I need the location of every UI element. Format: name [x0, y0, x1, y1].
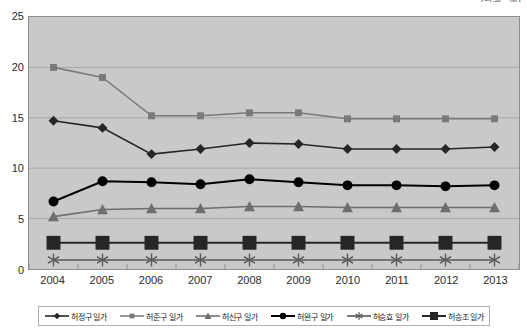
data-point-marker — [341, 236, 355, 250]
data-point-marker — [294, 139, 304, 149]
legend-swatch — [270, 310, 296, 322]
data-point-marker — [196, 144, 206, 154]
series-4 — [49, 174, 500, 206]
legend-marker-triangle-icon — [195, 310, 221, 322]
legend-marker-diamond-icon — [44, 310, 70, 322]
data-point-marker — [243, 236, 257, 250]
legend-swatch — [346, 310, 372, 322]
data-point-marker — [145, 236, 159, 250]
data-point-marker — [147, 149, 157, 159]
x-tick-label: 2008 — [237, 274, 261, 286]
legend-item-label: 허준구 일가 — [146, 311, 182, 322]
y-tick-label: 10 — [12, 162, 24, 174]
data-point-marker — [98, 123, 108, 133]
x-tick-label: 2006 — [139, 274, 163, 286]
data-point-marker — [148, 112, 155, 119]
legend-item-label: 허정구 일가 — [71, 311, 107, 322]
data-point-marker — [490, 180, 500, 190]
legend-item-4[interactable]: 허완구 일가 — [270, 310, 333, 322]
data-point-marker — [441, 181, 451, 191]
legend-marker-big-square-icon — [421, 310, 447, 322]
legend-item-label: 허신구 일가 — [222, 311, 258, 322]
data-point-marker — [98, 176, 108, 186]
data-point-marker — [488, 236, 502, 250]
legend-marker-square-icon — [119, 310, 145, 322]
series-2 — [50, 64, 498, 122]
series-line — [54, 67, 495, 118]
x-tick-label: 2005 — [90, 274, 114, 286]
data-point-marker — [47, 236, 61, 250]
data-point-marker — [490, 142, 500, 152]
data-point-marker — [390, 236, 404, 250]
chart-legend: 허정구 일가허준구 일가허신구 일가허완구 일가허승효 일가허승조 일가 — [38, 306, 490, 326]
y-tick-label: 0 — [18, 264, 24, 276]
data-point-marker — [439, 236, 453, 250]
y-tick-label: 15 — [12, 112, 24, 124]
x-tick-label: 2009 — [286, 274, 310, 286]
data-point-marker — [392, 144, 402, 154]
data-point-marker — [246, 109, 253, 116]
data-point-marker — [96, 236, 110, 250]
legend-item-label: 허승효 일가 — [373, 311, 409, 322]
series-6 — [47, 236, 502, 250]
unit-note: (단위 : %) — [481, 0, 521, 2]
x-axis: 2004200520062007200820092010201120122013 — [28, 274, 520, 290]
data-point-marker — [393, 115, 400, 122]
legend-swatch — [119, 310, 145, 322]
data-point-marker — [344, 115, 351, 122]
series-line — [54, 121, 495, 154]
legend-item-1[interactable]: 허정구 일가 — [44, 310, 107, 322]
data-point-marker — [194, 236, 208, 250]
data-point-marker — [295, 109, 302, 116]
chart-root: (단위 : %) 0510152025 20042005200620072008… — [0, 0, 527, 332]
data-point-marker — [392, 180, 402, 190]
x-tick-label: 2010 — [336, 274, 360, 286]
data-point-marker — [49, 197, 59, 207]
legend-item-label: 허완구 일가 — [297, 311, 333, 322]
legend-swatch — [44, 310, 70, 322]
plot-svg — [29, 17, 519, 269]
y-tick-label: 25 — [12, 10, 24, 22]
legend-item-5[interactable]: 허승효 일가 — [346, 310, 409, 322]
data-point-marker — [491, 115, 498, 122]
data-point-marker — [99, 74, 106, 81]
data-point-marker — [442, 115, 449, 122]
x-tick-label: 2013 — [483, 274, 507, 286]
series-line — [54, 207, 495, 217]
data-point-marker — [343, 180, 353, 190]
series-line — [54, 179, 495, 201]
legend-item-label: 허승조 일가 — [448, 311, 484, 322]
data-point-marker — [343, 144, 353, 154]
data-point-marker — [147, 177, 157, 187]
legend-marker-star-icon — [346, 310, 372, 322]
data-point-marker — [245, 174, 255, 184]
data-point-marker — [50, 64, 57, 71]
data-point-marker — [196, 179, 206, 189]
x-tick-label: 2012 — [434, 274, 458, 286]
legend-item-6[interactable]: 허승조 일가 — [421, 310, 484, 322]
legend-swatch — [421, 310, 447, 322]
series-1 — [49, 116, 500, 159]
legend-item-3[interactable]: 허신구 일가 — [195, 310, 258, 322]
x-tick-label: 2007 — [188, 274, 212, 286]
legend-marker-circle-icon — [270, 310, 296, 322]
data-point-marker — [441, 144, 451, 154]
x-tick-label: 2011 — [385, 274, 409, 286]
data-point-marker — [197, 112, 204, 119]
y-axis: 0510152025 — [0, 16, 24, 270]
y-tick-label: 5 — [18, 213, 24, 225]
x-tick-label: 2004 — [40, 274, 64, 286]
data-point-marker — [245, 138, 255, 148]
legend-swatch — [195, 310, 221, 322]
data-point-marker — [294, 177, 304, 187]
legend-item-2[interactable]: 허준구 일가 — [119, 310, 182, 322]
data-point-marker — [292, 236, 306, 250]
plot-area — [28, 16, 520, 270]
y-tick-label: 20 — [12, 61, 24, 73]
